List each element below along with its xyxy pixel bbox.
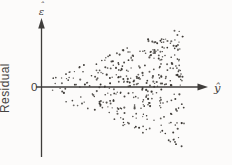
residual-dot <box>145 52 147 54</box>
residual-dot <box>159 67 161 69</box>
residual-dot <box>100 84 102 86</box>
residual-dot <box>152 75 154 77</box>
residual-dot <box>61 82 63 84</box>
residual-dot <box>133 80 135 82</box>
residual-dot <box>161 59 163 61</box>
residual-dot <box>127 78 129 80</box>
residual-dot <box>150 51 152 53</box>
residual-dot <box>156 81 158 83</box>
residual-dot <box>183 123 185 125</box>
residual-dot <box>61 77 62 78</box>
residual-dot <box>126 69 128 71</box>
residual-dot <box>158 58 160 60</box>
residual-dot <box>169 122 170 123</box>
residual-dot <box>176 122 178 124</box>
residual-dot <box>113 88 115 90</box>
residual-dot <box>158 74 160 76</box>
residual-dot <box>144 50 146 52</box>
residual-dot <box>96 90 98 92</box>
residual-dot <box>178 69 180 71</box>
residual-dot <box>152 81 154 83</box>
residual-dot <box>127 51 129 53</box>
residual-dot <box>124 124 125 125</box>
residual-dot <box>180 84 181 85</box>
residual-dot <box>109 87 111 89</box>
residual-dot <box>160 97 162 99</box>
residual-dot <box>114 118 116 120</box>
residual-dot <box>155 50 157 52</box>
residual-dot <box>118 69 120 71</box>
residual-dot <box>150 54 152 56</box>
residual-dot <box>181 80 183 82</box>
residual-dot <box>107 93 108 94</box>
residual-dot <box>149 102 151 104</box>
residual-dot <box>142 132 144 134</box>
residual-dot <box>138 65 140 67</box>
residual-dot <box>153 68 155 70</box>
residual-dot <box>164 55 166 57</box>
residual-dot <box>122 65 124 67</box>
residual-plot-canvas: ε ˆ ŷ 0 Residual <box>0 0 232 165</box>
residual-dot <box>178 93 180 95</box>
residual-dot <box>110 67 112 69</box>
residual-dot <box>116 52 118 54</box>
residual-dot <box>117 62 119 64</box>
residual-dot <box>65 101 67 103</box>
residual-dot <box>140 107 142 109</box>
residual-dot <box>170 84 172 86</box>
residual-dot <box>165 76 167 78</box>
residual-dot <box>172 132 174 134</box>
residual-dot <box>159 100 161 102</box>
residual-dot <box>104 94 105 95</box>
residual-dot <box>115 93 117 95</box>
residual-dot <box>91 75 93 77</box>
residual-dot <box>137 97 138 98</box>
residual-dot <box>169 141 171 143</box>
residual-dot <box>173 94 175 96</box>
residual-dot <box>105 57 107 59</box>
residual-dot <box>138 127 140 129</box>
residual-dot <box>159 40 161 42</box>
residual-dot <box>104 60 105 61</box>
residual-dot <box>174 30 176 32</box>
residual-dot <box>143 99 145 101</box>
residual-dot <box>154 83 155 84</box>
residual-dot <box>116 113 118 115</box>
residual-dot <box>149 105 151 107</box>
residual-dot <box>132 92 133 93</box>
residual-dot <box>81 102 83 104</box>
residual-dot <box>113 65 115 67</box>
residual-dot <box>151 91 153 93</box>
residual-dot <box>171 99 173 101</box>
residual-dot <box>104 66 106 68</box>
residual-dot <box>68 72 70 74</box>
residual-dot <box>178 107 180 109</box>
residual-dot <box>120 92 122 94</box>
residual-dot <box>127 71 128 72</box>
residual-dot <box>161 42 162 43</box>
residual-dot <box>144 105 145 106</box>
residual-dot <box>142 125 144 127</box>
residual-dot <box>174 141 176 143</box>
residual-dot <box>156 92 158 94</box>
residual-dot <box>178 59 180 61</box>
residual-dot <box>170 40 172 42</box>
residual-dot <box>80 96 82 98</box>
residual-dot <box>96 79 98 81</box>
residual-dot <box>178 41 179 42</box>
residual-dot <box>79 79 81 81</box>
residual-dot <box>106 74 108 76</box>
residual-dot <box>107 67 109 69</box>
residual-dot <box>55 77 57 79</box>
residual-dot <box>152 93 153 94</box>
residual-dot <box>84 83 86 85</box>
y-axis-symbol-hat: ˆ <box>40 1 45 11</box>
residual-dot <box>161 38 163 40</box>
residual-dot <box>161 46 163 48</box>
residual-dot <box>146 80 148 82</box>
residual-dot <box>174 39 175 40</box>
residual-dot <box>137 74 139 76</box>
residual-dot <box>130 67 131 68</box>
residual-dot <box>64 88 66 90</box>
residual-dot <box>160 131 161 132</box>
